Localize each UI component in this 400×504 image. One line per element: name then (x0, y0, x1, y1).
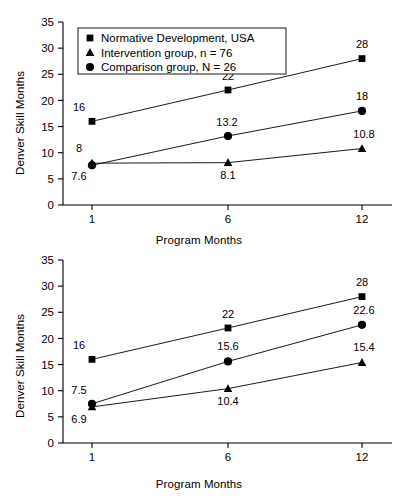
chart-top-plot: 0510152025303516121622287.613.21888.110.… (0, 10, 400, 232)
data-point-label: 16 (73, 339, 85, 351)
data-point-label: 8 (76, 142, 82, 154)
data-point-circle (224, 357, 232, 365)
data-point-square (225, 87, 232, 94)
chart-top: 0510152025303516121622287.613.21888.110.… (0, 10, 400, 255)
y-tick-label: 20 (41, 333, 54, 345)
x-tick-label: 6 (225, 451, 231, 463)
y-tick-label: 5 (48, 173, 54, 185)
legend-marker-circle (86, 63, 94, 71)
y-tick-label: 35 (41, 16, 54, 28)
legend-item-label: Normative Development, USA (101, 32, 255, 44)
data-point-label: 16 (73, 101, 85, 113)
data-point-label: 7.5 (71, 384, 86, 396)
x-tick-label: 1 (89, 213, 95, 225)
chart-bottom-plot: 0510152025303516121622287.515.622.66.910… (0, 250, 400, 476)
y-tick-label: 30 (41, 42, 54, 54)
data-point-square (359, 55, 366, 62)
data-point-label: 10.8 (353, 128, 374, 140)
chart-top-x-axis-title: Program Months (24, 234, 374, 246)
chart-bottom-y-axis-title: Denver Skill Months (14, 314, 26, 418)
x-tick-label: 12 (356, 213, 369, 225)
y-tick-label: 0 (48, 199, 54, 211)
page-header (0, 0, 400, 9)
y-tick-label: 25 (41, 306, 54, 318)
data-point-label: 13.2 (216, 116, 237, 128)
data-point-label: 22.6 (353, 304, 374, 316)
data-point-label: 6.9 (71, 413, 86, 425)
chart-bottom: 0510152025303516121622287.515.622.66.910… (0, 250, 400, 504)
y-tick-label: 20 (41, 95, 54, 107)
y-tick-label: 15 (41, 359, 54, 371)
data-point-square (359, 293, 366, 300)
legend-marker-square (87, 35, 94, 42)
chart-bottom-x-axis-title: Program Months (24, 478, 374, 490)
data-point-circle (224, 132, 232, 140)
y-tick-label: 30 (41, 280, 54, 292)
data-point-label: 28 (356, 38, 368, 50)
data-point-label: 8.1 (220, 169, 235, 181)
data-point-circle (358, 107, 366, 115)
y-tick-label: 10 (41, 147, 54, 159)
legend-item-label: Comparison group, N = 26 (101, 61, 236, 73)
x-tick-label: 6 (225, 213, 231, 225)
chart-top-y-axis-title: Denver Skill Months (14, 71, 26, 175)
y-tick-label: 10 (41, 385, 54, 397)
y-tick-label: 0 (48, 437, 54, 449)
data-point-label: 18 (356, 90, 368, 102)
y-tick-label: 15 (41, 121, 54, 133)
data-point-triangle (358, 358, 367, 366)
data-point-triangle (358, 144, 367, 152)
data-point-label: 22 (222, 308, 234, 320)
data-point-circle (358, 321, 366, 329)
data-point-label: 15.6 (217, 340, 238, 352)
x-tick-label: 12 (356, 451, 369, 463)
legend-item-label: Intervention group, n = 76 (101, 47, 232, 59)
y-tick-label: 25 (41, 68, 54, 80)
data-point-label: 28 (356, 276, 368, 288)
data-point-label: 7.6 (71, 170, 86, 182)
x-tick-label: 1 (89, 451, 95, 463)
data-point-label: 15.4 (353, 341, 374, 353)
y-tick-label: 5 (48, 411, 54, 423)
data-point-square (225, 325, 232, 332)
y-tick-label: 35 (41, 254, 54, 266)
data-point-square (89, 356, 96, 363)
data-point-label: 10.4 (217, 395, 238, 407)
data-point-square (89, 118, 96, 125)
